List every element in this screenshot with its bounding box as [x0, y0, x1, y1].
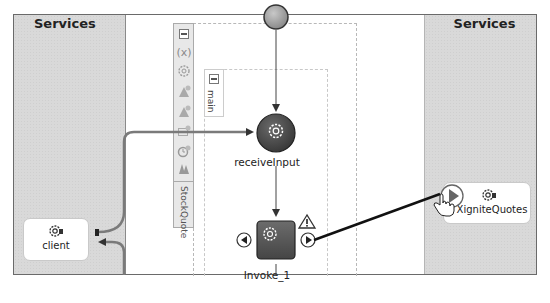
- service-client-label: client: [42, 240, 69, 251]
- left-lane-title: Services: [14, 16, 125, 31]
- receive-input-label: receiveInput: [232, 156, 302, 168]
- sequence-main-tab[interactable]: main: [204, 69, 224, 117]
- right-lane-title: Services: [425, 16, 536, 31]
- sequence-main-label: main: [206, 90, 216, 113]
- gear-icon: [480, 187, 498, 203]
- bpel-canvas[interactable]: Services client Services XigniteQuotes (: [13, 14, 537, 275]
- handlers-icon[interactable]: [176, 161, 192, 177]
- left-services-lane: Services client: [14, 15, 126, 274]
- scope-name-label: StockQuote: [174, 181, 193, 227]
- correlation-icon[interactable]: [176, 83, 192, 99]
- gear-icon: [47, 223, 65, 239]
- service-client[interactable]: client: [23, 218, 89, 261]
- message-icon[interactable]: [176, 123, 192, 139]
- service-xignitequotes-label: XigniteQuotes: [447, 204, 528, 215]
- scope-toolbar: (x) StockQuote: [173, 23, 194, 228]
- service-xignitequotes[interactable]: XigniteQuotes: [443, 182, 531, 224]
- right-services-lane: Services XigniteQuotes: [424, 15, 536, 274]
- invoke-1-label: Invoke_1: [242, 269, 292, 281]
- timer-icon[interactable]: [176, 143, 192, 159]
- gear-icon[interactable]: [176, 63, 192, 79]
- variables-icon[interactable]: (x): [176, 44, 192, 60]
- correlation-icon-2[interactable]: [176, 103, 192, 119]
- collapse-icon[interactable]: [176, 26, 192, 42]
- collapse-icon[interactable]: [209, 74, 219, 84]
